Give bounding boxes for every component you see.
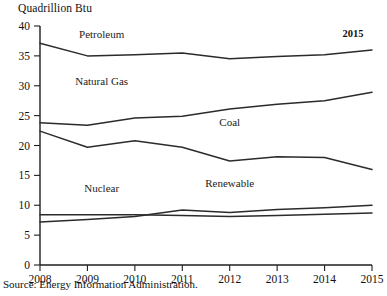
series-label-renewable: Renewable: [205, 177, 254, 189]
series-label-nuclear: Nuclear: [84, 182, 119, 194]
series-label-coal: Coal: [219, 116, 240, 128]
end-year-annotation: 2015: [343, 28, 364, 39]
x-axis-tick-label: 2013: [266, 273, 289, 285]
series-line-coal: [40, 131, 372, 169]
series-label-natural-gas: Natural Gas: [75, 75, 128, 87]
energy-consumption-line-chart: Quadrillion Btu 0510152025303540 2008200…: [0, 0, 387, 296]
x-axis-tick-label: 2014: [313, 273, 336, 285]
annotation-group: 2015: [343, 28, 364, 39]
chart-plot-area: 0510152025303540 20082009201020112012201…: [0, 0, 387, 296]
y-axis-tick-label: 35: [19, 50, 31, 62]
y-axis-tick-label: 0: [24, 259, 30, 271]
y-axis-tick-label: 40: [19, 20, 31, 32]
series-line-petroleum: [40, 43, 372, 59]
y-axis-tick-label: 15: [19, 169, 31, 181]
series-line-nuclear: [40, 213, 372, 217]
y-axis-tick-label: 10: [19, 199, 31, 211]
y-axis-tick-label: 5: [24, 229, 30, 241]
y-axis-tick-group: 0510152025303540: [19, 20, 41, 271]
x-axis-tick-label: 2012: [218, 273, 241, 285]
y-axis-tick-label: 25: [19, 110, 31, 122]
y-axis-tick-label: 30: [19, 80, 31, 92]
y-axis-tick-label: 20: [19, 140, 31, 152]
series-line-group: [40, 43, 372, 222]
series-label-petroleum: Petroleum: [79, 28, 125, 40]
series-line-natural-gas: [40, 92, 372, 125]
source-note: Source: Energy Information Administratio…: [3, 278, 198, 290]
x-axis-tick-label: 2015: [361, 273, 384, 285]
